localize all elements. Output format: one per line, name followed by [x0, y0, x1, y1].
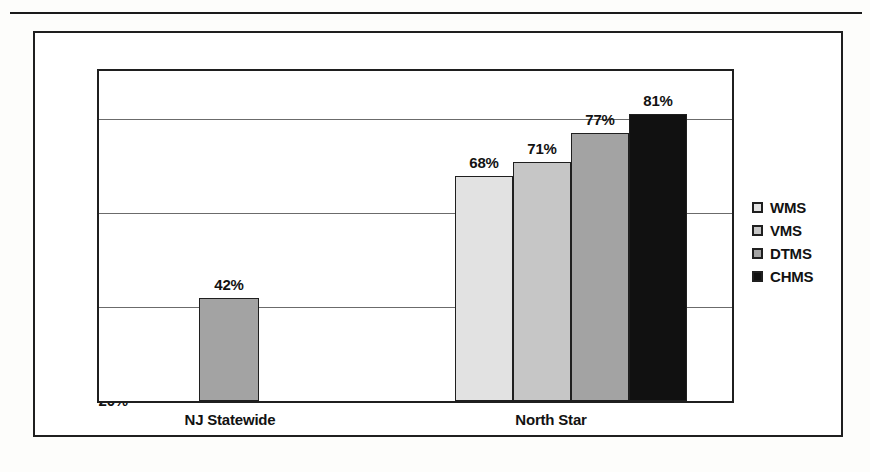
legend-label-dtms: DTMS	[770, 245, 812, 262]
legend-item-chms[interactable]: CHMS	[752, 265, 813, 288]
plot-area: 42% 68% 71% 77% 81%	[97, 69, 734, 403]
bar-label-north-star-chms: 81%	[629, 92, 687, 109]
chart-legend: WMS VMS DTMS CHMS	[752, 196, 813, 288]
bar-north-star-chms[interactable]	[629, 114, 687, 401]
bar-label-north-star-wms: 68%	[455, 154, 513, 171]
legend-swatch-vms-icon	[752, 225, 763, 236]
legend-item-wms[interactable]: WMS	[752, 196, 813, 219]
x-axis-category-north-star: North Star	[451, 411, 651, 428]
x-axis-category-nj-statewide: NJ Statewide	[148, 411, 312, 428]
bar-north-star-vms[interactable]	[513, 162, 571, 401]
bar-north-star-dtms[interactable]	[571, 133, 629, 401]
legend-item-dtms[interactable]: DTMS	[752, 242, 813, 265]
legend-label-chms: CHMS	[770, 268, 813, 285]
bar-north-star-wms[interactable]	[455, 176, 513, 401]
legend-swatch-chms-icon	[752, 271, 763, 282]
bar-label-north-star-vms: 71%	[513, 140, 571, 157]
legend-swatch-wms-icon	[752, 202, 763, 213]
legend-swatch-dtms-icon	[752, 248, 763, 259]
bar-label-nj-statewide-dtms: 42%	[199, 276, 259, 293]
bar-label-north-star-dtms: 77%	[571, 111, 629, 128]
legend-label-vms: VMS	[770, 222, 802, 239]
legend-item-vms[interactable]: VMS	[752, 219, 813, 242]
bar-nj-statewide-dtms[interactable]	[199, 298, 259, 401]
page-top-rule	[10, 12, 862, 14]
legend-label-wms: WMS	[770, 199, 806, 216]
